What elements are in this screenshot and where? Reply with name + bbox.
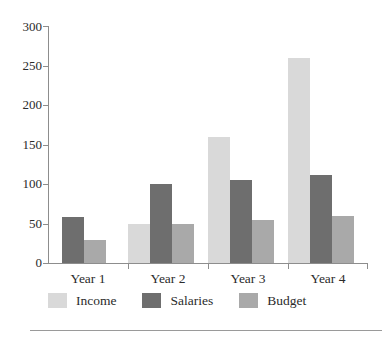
y-axis-tick-label: 150: [2, 138, 42, 151]
plot-area: Year 1 Year 2 Year 3 Year 4: [48, 26, 368, 264]
y-axis-tick-label: 50: [2, 217, 42, 230]
y-axis-tick: [43, 263, 48, 264]
x-axis-tick: [128, 264, 129, 269]
bar-group: [48, 26, 128, 263]
bar-income[interactable]: [208, 137, 230, 263]
bar-salaries[interactable]: [62, 217, 84, 263]
bar-salaries[interactable]: [150, 184, 172, 263]
legend-item-budget[interactable]: Budget: [239, 293, 332, 308]
x-axis-tick: [288, 264, 289, 269]
legend-label-salaries: Salaries: [170, 294, 213, 308]
legend-item-income[interactable]: Income: [48, 293, 142, 308]
bar-salaries[interactable]: [230, 180, 252, 263]
legend-label-income: Income: [76, 294, 116, 308]
legend-item-salaries[interactable]: Salaries: [142, 293, 239, 308]
legend-swatch-income: [48, 293, 67, 308]
bar-chart: 300 250 200 150 100 50 0: [0, 0, 385, 338]
bar-group: [288, 26, 368, 263]
x-axis-category-label: Year 4: [288, 272, 368, 286]
legend-swatch-salaries: [142, 293, 161, 308]
footer-divider: [30, 330, 382, 331]
y-axis-tick-label: 200: [2, 98, 42, 111]
legend-label-budget: Budget: [267, 294, 306, 308]
y-axis-tick-label: 100: [2, 177, 42, 190]
x-axis-tick: [208, 264, 209, 269]
bar-group: [128, 26, 208, 263]
x-axis-category-label: Year 1: [48, 272, 128, 286]
bar-income[interactable]: [128, 224, 150, 264]
bar-budget[interactable]: [332, 216, 354, 263]
y-axis-tick-label: 300: [2, 20, 42, 33]
bar-income[interactable]: [288, 58, 310, 263]
bar-group: [208, 26, 288, 263]
chart-legend: Income Salaries Budget: [48, 293, 332, 308]
legend-swatch-budget: [239, 293, 258, 308]
x-axis-category-label: Year 2: [128, 272, 208, 286]
y-axis-tick-label: 250: [2, 59, 42, 72]
bar-budget[interactable]: [84, 240, 106, 263]
y-axis-tick-label: 0: [2, 256, 42, 269]
bar-budget[interactable]: [172, 224, 194, 263]
x-axis-category-label: Year 3: [208, 272, 288, 286]
x-axis-tick: [367, 264, 368, 269]
bar-budget[interactable]: [252, 220, 274, 263]
bar-salaries[interactable]: [310, 175, 332, 263]
